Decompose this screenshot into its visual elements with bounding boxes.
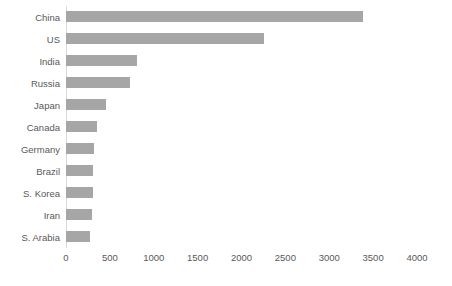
bar-russia <box>66 77 130 88</box>
bar-china <box>66 11 363 22</box>
bar-row <box>66 226 417 248</box>
bar-row <box>66 204 417 226</box>
bar-s-arabia <box>66 231 90 242</box>
bar-row <box>66 72 417 94</box>
value-axis-tick: 4000 <box>406 252 427 264</box>
bar-us <box>66 33 264 44</box>
bar-row <box>66 28 417 50</box>
bar-chart: ChinaUSIndiaRussiaJapanCanadaGermanyBraz… <box>0 0 452 286</box>
value-axis-tick: 500 <box>102 252 118 264</box>
value-axis-tick: 0 <box>63 252 68 264</box>
bar-row <box>66 116 417 138</box>
bar-row <box>66 138 417 160</box>
category-label: China <box>0 12 60 23</box>
value-axis-tick: 3500 <box>363 252 384 264</box>
category-label: Russia <box>0 78 60 89</box>
category-label: Canada <box>0 122 60 133</box>
category-label: India <box>0 56 60 67</box>
value-axis-tick: 2500 <box>275 252 296 264</box>
bar-germany <box>66 143 94 154</box>
category-label: S. Korea <box>0 188 60 199</box>
bar-row <box>66 50 417 72</box>
bar-s-korea <box>66 187 93 198</box>
category-label: Iran <box>0 210 60 221</box>
bar-brazil <box>66 165 93 176</box>
value-axis-tick: 3000 <box>319 252 340 264</box>
category-label: S. Arabia <box>0 232 60 243</box>
plot-area <box>66 6 417 248</box>
category-label: Brazil <box>0 166 60 177</box>
bar-row <box>66 6 417 28</box>
category-label: Japan <box>0 100 60 111</box>
bar-row <box>66 182 417 204</box>
value-axis-tick: 2000 <box>231 252 252 264</box>
bar-india <box>66 55 137 66</box>
bar-canada <box>66 121 97 132</box>
category-label: Germany <box>0 144 60 155</box>
bar-row <box>66 160 417 182</box>
category-label: US <box>0 34 60 45</box>
bar-row <box>66 94 417 116</box>
value-axis-tick: 1000 <box>143 252 164 264</box>
bar-japan <box>66 99 106 110</box>
value-axis-tick: 1500 <box>187 252 208 264</box>
value-axis-tick-labels: 05001000150020002500300035004000 <box>0 252 452 268</box>
bar-iran <box>66 209 92 220</box>
